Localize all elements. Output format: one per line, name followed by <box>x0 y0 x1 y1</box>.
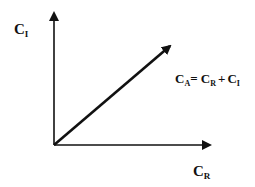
lhs-symbol: C <box>175 71 184 86</box>
plus-sign: + <box>218 71 225 86</box>
term1-subscript: R <box>210 79 216 88</box>
lhs-subscript: A <box>184 79 190 88</box>
term2-subscript: I <box>237 79 240 88</box>
x-axis-subscript: R <box>204 171 211 181</box>
term1-symbol: C <box>201 71 210 86</box>
x-axis-symbol: C <box>193 163 204 179</box>
vector-diagram <box>0 0 255 187</box>
x-axis-label: CR <box>193 164 210 179</box>
resultant-equation: CA= CR+CI <box>175 72 240 85</box>
y-axis-label: CI <box>14 22 28 37</box>
equals-sign: = <box>190 71 197 86</box>
term2-symbol: C <box>227 71 236 86</box>
y-axis-subscript: I <box>25 29 29 39</box>
resultant-vector-arrow <box>54 46 170 145</box>
y-axis-symbol: C <box>14 21 25 37</box>
